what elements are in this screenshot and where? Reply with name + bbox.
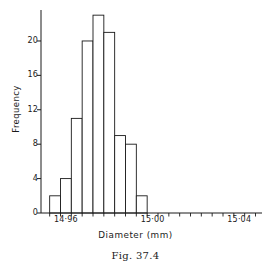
- histogram-bar: [61, 179, 72, 213]
- x-axis-title: Diameter (mm): [0, 230, 271, 240]
- histogram-bar: [136, 196, 147, 213]
- y-axis-tick-label: 20: [22, 37, 38, 45]
- figure-37-4: 048121620 Frequency 14·9615·0015·04 Diam…: [0, 0, 271, 275]
- y-axis-tick-label: 4: [22, 175, 38, 183]
- histogram-bar: [115, 136, 126, 213]
- figure-caption: Fig. 37.4: [0, 250, 271, 261]
- y-axis-tick-label: 12: [22, 106, 38, 114]
- y-axis-tick-label: 8: [22, 140, 38, 148]
- x-axis-tick-label: 15·00: [141, 215, 165, 224]
- x-axis-tick-labels: 14·9615·0015·04: [0, 215, 271, 229]
- histogram-bar: [82, 41, 93, 213]
- x-axis-tick-label: 15·04: [227, 215, 251, 224]
- histogram-bar: [104, 32, 115, 213]
- histogram-plot: [0, 0, 271, 222]
- histogram-svg: [0, 0, 271, 222]
- histogram-bars: [50, 15, 147, 213]
- y-axis-tick-label: 16: [22, 71, 38, 79]
- histogram-bar: [50, 196, 61, 213]
- histogram-bar: [126, 144, 137, 213]
- x-axis-tick-label: 14·96: [54, 215, 78, 224]
- histogram-bar: [71, 118, 82, 213]
- histogram-bar: [93, 15, 104, 213]
- y-axis-title: Frequency: [11, 64, 21, 154]
